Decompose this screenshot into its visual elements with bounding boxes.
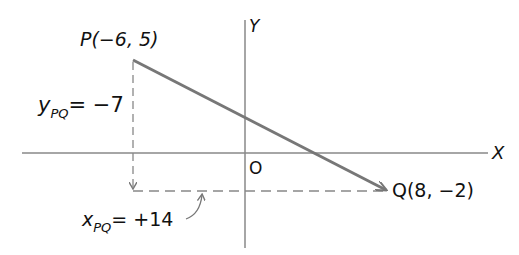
x-value: = +14 — [111, 208, 173, 230]
x-component-label: xPQ= +14 — [82, 208, 173, 235]
point-p-label: P(−6, 5) — [80, 28, 158, 50]
y-sub: PQ — [50, 106, 68, 121]
point-q-label: Q(8, −2) — [392, 179, 474, 201]
y-component-label: yPQ= −7 — [38, 93, 124, 121]
diagram-canvas — [0, 0, 519, 255]
y-value: = −7 — [69, 93, 124, 117]
vector-diagram: Y X O P(−6, 5) Q(8, −2) yPQ= −7 xPQ= +14 — [0, 0, 519, 255]
y-axis-label: Y — [249, 16, 259, 36]
y-var: y — [38, 93, 50, 117]
origin-label: O — [249, 158, 262, 178]
x-sub: PQ — [93, 220, 111, 235]
pointer-arrow — [186, 195, 202, 219]
x-axis-label: X — [492, 142, 504, 163]
x-var: x — [82, 208, 93, 230]
